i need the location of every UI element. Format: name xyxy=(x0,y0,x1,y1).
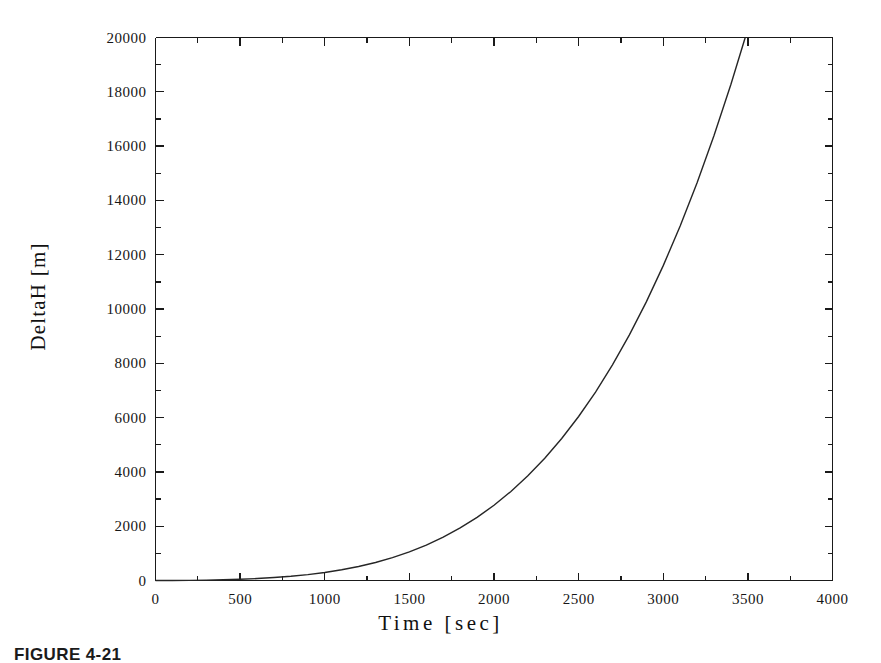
axis-frame xyxy=(156,38,833,581)
y-tick-label: 4000 xyxy=(115,463,147,480)
y-tick-label: 12000 xyxy=(107,246,147,263)
x-tick-label: 3000 xyxy=(647,591,679,608)
figure-caption: FIGURE 4-21 xyxy=(14,645,121,663)
x-tick-label: 2000 xyxy=(478,591,510,608)
y-tick-label: 10000 xyxy=(107,301,147,318)
x-tick-label: 3500 xyxy=(732,591,764,608)
x-tick-label: 2500 xyxy=(563,591,595,608)
y-tick-label: 0 xyxy=(139,572,147,589)
y-tick-label: 2000 xyxy=(115,518,147,535)
x-tick-label: 1500 xyxy=(393,591,425,608)
data-series-line xyxy=(156,38,746,581)
y-tick-label: 14000 xyxy=(107,192,147,209)
y-tick-label: 8000 xyxy=(115,355,147,372)
x-tick-label: 500 xyxy=(228,591,252,608)
x-tick-label: 1000 xyxy=(309,591,341,608)
y-axis-title: DeltaH [m] xyxy=(26,197,51,397)
tick-marks xyxy=(156,38,833,581)
x-tick-label: 0 xyxy=(152,591,160,608)
y-tick-label: 18000 xyxy=(107,83,147,100)
y-tick-label: 16000 xyxy=(107,138,147,155)
x-tick-label: 4000 xyxy=(817,591,849,608)
y-tick-label: 20000 xyxy=(107,29,147,46)
x-axis-title: Time [sec] xyxy=(0,611,881,636)
y-tick-label: 6000 xyxy=(115,409,147,426)
figure-container: 0200040006000800010000120001400016000180… xyxy=(0,0,881,663)
